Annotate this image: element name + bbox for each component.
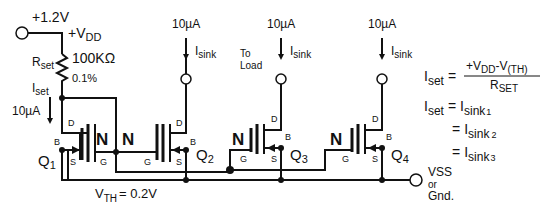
svg-text:+VDD-V(TH): +VDD-V(TH) bbox=[466, 59, 527, 75]
rset-tolerance: 0.1% bbox=[72, 72, 97, 84]
output-2-terminal bbox=[276, 74, 286, 84]
q1-type: N bbox=[96, 130, 108, 149]
vdd-wire bbox=[28, 33, 62, 54]
output-1-terminal bbox=[181, 74, 191, 84]
rset-value: 100KΩ bbox=[72, 50, 115, 66]
to-load-note-line1: To bbox=[240, 48, 251, 59]
svg-text:D: D bbox=[372, 114, 379, 124]
supply-voltage-label: +1.2V bbox=[32, 9, 70, 25]
svg-text:G: G bbox=[240, 154, 247, 164]
svg-text:S: S bbox=[271, 154, 277, 164]
rset-resistor-icon bbox=[57, 54, 67, 98]
svg-text:S: S bbox=[176, 157, 182, 167]
iset-label: Iset bbox=[32, 81, 49, 97]
svg-text:S: S bbox=[372, 154, 378, 164]
vdd-label: +VDD bbox=[68, 25, 101, 43]
svg-text:G: G bbox=[144, 157, 151, 167]
rset-label: Rset bbox=[32, 55, 54, 71]
q4-type: N bbox=[330, 130, 342, 149]
svg-text:RSET: RSET bbox=[490, 78, 518, 94]
svg-text:Isink: Isink bbox=[290, 44, 312, 60]
svg-text:G: G bbox=[342, 154, 349, 164]
svg-text:D: D bbox=[176, 118, 183, 128]
q4-label: Q4 bbox=[391, 146, 409, 165]
svg-text:Isink: Isink bbox=[195, 44, 217, 60]
to-load-note-line2: Load bbox=[240, 60, 262, 71]
svg-text:=Isink2: =Isink2 bbox=[452, 121, 496, 141]
svg-text:S: S bbox=[70, 157, 76, 167]
svg-text:10µA: 10µA bbox=[267, 17, 295, 31]
svg-text:10µA: 10µA bbox=[172, 17, 200, 31]
svg-text:D: D bbox=[271, 114, 278, 124]
q3-type: N bbox=[232, 130, 244, 149]
svg-text:Iset=Isink1: Iset=Isink1 bbox=[424, 98, 491, 118]
equations: Iset= +VDD-V(TH) RSET Iset=Isink1 =Isink… bbox=[424, 59, 540, 164]
svg-text:B: B bbox=[386, 132, 392, 142]
svg-text:D: D bbox=[68, 118, 75, 128]
q1-label: Q1 bbox=[38, 152, 56, 171]
q2-type: N bbox=[122, 130, 134, 149]
svg-text:B: B bbox=[285, 132, 291, 142]
vth-label: VTH= 0.2V bbox=[95, 186, 157, 204]
svg-text:10µA: 10µA bbox=[368, 17, 396, 31]
transistor-q4 bbox=[352, 84, 385, 180]
svg-text:G: G bbox=[100, 157, 107, 167]
vss-label: VSS bbox=[428, 165, 452, 179]
svg-text:B: B bbox=[54, 137, 60, 147]
iset-current: 10µA bbox=[12, 104, 40, 118]
svg-text:Gnd.: Gnd. bbox=[428, 189, 454, 203]
ground-bus bbox=[62, 150, 410, 180]
q2-label: Q2 bbox=[196, 146, 214, 165]
output-3-terminal bbox=[377, 74, 387, 84]
current-mirror-schematic: +1.2V +VDD Rset 100KΩ 0.1% Iset 10µA N D… bbox=[0, 0, 552, 214]
svg-text:=Isink3: =Isink3 bbox=[452, 144, 495, 164]
svg-text:Isink: Isink bbox=[391, 44, 413, 60]
vss-terminal bbox=[410, 174, 422, 186]
q3-label: Q3 bbox=[290, 146, 308, 165]
svg-text:Iset=: Iset= bbox=[424, 68, 456, 88]
vdd-terminal bbox=[16, 27, 28, 39]
